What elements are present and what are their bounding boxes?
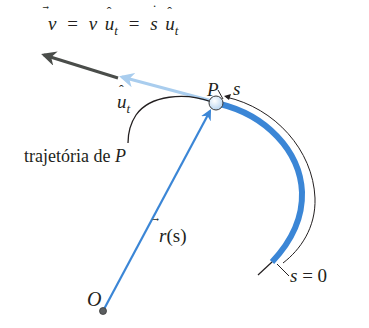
hat-icon: ˆ: [119, 84, 124, 98]
equals-1: =: [67, 13, 78, 34]
point-P-label: P: [207, 80, 219, 99]
s-dot: s˙: [150, 13, 157, 34]
velocity-arrow: [44, 55, 118, 78]
speed-symbol: v: [89, 13, 97, 34]
v-vector: v⃗: [48, 13, 56, 34]
subscript-t: t: [127, 101, 131, 116]
origin-label: O: [87, 289, 101, 309]
arc-s-label: s: [233, 79, 240, 98]
arc-length-arrowhead: [224, 94, 231, 100]
hat-icon: ˆ: [107, 6, 112, 20]
dot-icon: ˙: [152, 4, 157, 18]
v-symbol: v: [48, 13, 56, 34]
trajectory-label: trajetória de P: [24, 147, 126, 165]
path-tail: [258, 262, 272, 275]
position-argument: (s): [166, 225, 186, 246]
subscript-t: t: [175, 23, 179, 38]
hat-icon: ˆ: [167, 6, 172, 20]
s-zero-label: s = 0: [290, 266, 327, 285]
s-zero-tick: [277, 264, 289, 276]
trajectory-P: P: [115, 146, 126, 166]
velocity-equation: v⃗ = v uˆt = s˙ uˆt: [48, 14, 178, 37]
s-symbol: s: [290, 265, 297, 286]
r-symbol: r: [159, 225, 166, 246]
trajectory-curve-back: [128, 96, 212, 143]
position-vector-label: r⃗(s): [159, 226, 186, 245]
u-hat-1: uˆ: [105, 13, 115, 34]
unit-tangent-label: uˆt: [117, 92, 130, 115]
path-segment-blue: [220, 104, 302, 262]
equals-2: =: [129, 13, 140, 34]
trajectory-text: trajetória de: [24, 146, 115, 166]
kinematics-diagram: v⃗ = v uˆt = s˙ uˆt uˆt P s trajetória d…: [0, 0, 369, 328]
position-vector-arrow: [103, 111, 210, 311]
equals-zero: = 0: [302, 265, 327, 286]
u-hat-2: uˆ: [165, 13, 175, 34]
subscript-t: t: [114, 23, 118, 38]
